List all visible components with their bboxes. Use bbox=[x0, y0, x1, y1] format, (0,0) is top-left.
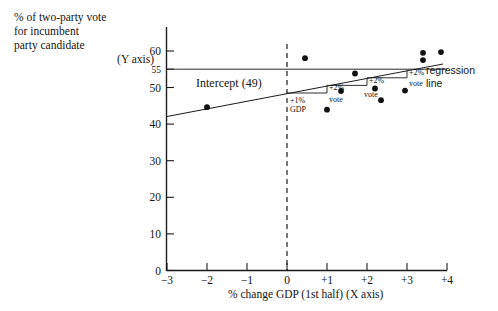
data-point bbox=[420, 50, 426, 56]
y-tick-label-60: 60 bbox=[150, 45, 162, 57]
y-tick-label-50: 50 bbox=[150, 82, 162, 94]
slope-rise-label-2-pct: +2% bbox=[369, 76, 385, 85]
y-tick-label-20: 20 bbox=[150, 191, 162, 203]
slope-rise-label-2-word: vote bbox=[364, 90, 378, 99]
y-tick-label-55: 55 bbox=[152, 65, 162, 75]
slope-run-label-gdp-pct: +1% bbox=[290, 96, 306, 105]
scatter-chart-figure: % of two-party vote for incumbent party … bbox=[0, 0, 498, 311]
x-tick-label-pos3: +3 bbox=[401, 274, 413, 286]
data-point bbox=[372, 86, 378, 92]
data-point bbox=[378, 97, 384, 103]
x-tick-label-neg2: −2 bbox=[201, 274, 213, 286]
data-point bbox=[338, 88, 344, 94]
regression-line-label-1: regression bbox=[426, 64, 475, 76]
slope-rise-label-3-pct: +2% bbox=[409, 68, 425, 77]
slope-step-annotation-1 bbox=[287, 85, 327, 93]
data-point bbox=[402, 88, 408, 94]
data-point bbox=[204, 104, 210, 110]
x-tick-label-pos2: +2 bbox=[361, 274, 373, 286]
regression-line-label-2: line bbox=[426, 77, 443, 89]
x-tick-label-pos1: +1 bbox=[321, 274, 333, 286]
y-tick-label-30: 30 bbox=[150, 155, 162, 167]
slope-run-label-gdp-word: GDP bbox=[290, 105, 307, 114]
chart-canvas: 0 10 20 30 40 50 55 60 −3 −2 −1 0 +1 +2 … bbox=[0, 0, 498, 311]
y-tick-label-10: 10 bbox=[150, 228, 162, 240]
data-point bbox=[438, 49, 444, 55]
x-tick-label-neg1: −1 bbox=[241, 274, 253, 286]
x-tick-label-0: 0 bbox=[284, 274, 290, 286]
x-axis-ticks bbox=[167, 263, 447, 271]
slope-rise-label-1-word: vote bbox=[329, 95, 343, 104]
data-point bbox=[352, 71, 358, 77]
data-point bbox=[324, 107, 330, 113]
x-tick-label-neg3: −3 bbox=[161, 274, 173, 286]
data-point bbox=[302, 55, 308, 61]
data-point bbox=[420, 57, 426, 63]
slope-rise-label-3-word: vote bbox=[409, 79, 423, 88]
y-axis-ticks bbox=[167, 51, 175, 271]
intercept-label: Intercept (49) bbox=[196, 76, 262, 90]
x-tick-label-pos4: +4 bbox=[441, 274, 453, 286]
y-tick-label-40: 40 bbox=[150, 118, 162, 130]
